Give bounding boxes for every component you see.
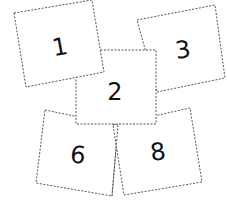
cards-diagram: 3 6 8 2 1 bbox=[0, 0, 227, 201]
card-1: 1 bbox=[14, 0, 104, 87]
card-6-number: 6 bbox=[69, 140, 87, 169]
card-2-number: 2 bbox=[107, 78, 122, 106]
